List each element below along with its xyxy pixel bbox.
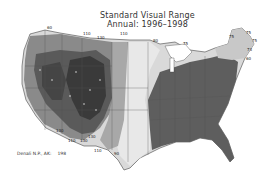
svg-text:110: 110: [120, 31, 128, 36]
svg-text:73: 73: [247, 47, 253, 52]
denali-value: 198: [57, 151, 66, 156]
svg-text:130: 130: [97, 35, 105, 40]
svg-text:130: 130: [80, 138, 88, 143]
svg-text:90: 90: [114, 151, 120, 156]
svg-text:75: 75: [252, 38, 258, 43]
visual-range-map-figure: Standard Visual Range Annual: 1996–1998: [0, 0, 267, 182]
denali-label: Denali N.P., AK:: [17, 151, 51, 156]
svg-text:110: 110: [68, 138, 76, 143]
svg-text:110: 110: [94, 148, 102, 153]
svg-text:75: 75: [246, 30, 252, 35]
svg-text:130: 130: [88, 134, 96, 139]
denali-inset-label: Denali N.P., AK:198: [17, 151, 66, 156]
lake-michigan: [170, 58, 174, 72]
svg-text:130: 130: [56, 128, 64, 133]
svg-text:110: 110: [83, 31, 91, 36]
svg-text:60: 60: [47, 25, 53, 30]
svg-text:75: 75: [229, 34, 235, 39]
svg-text:80: 80: [153, 38, 159, 43]
svg-text:75: 75: [183, 41, 189, 46]
svg-text:60: 60: [246, 56, 252, 61]
